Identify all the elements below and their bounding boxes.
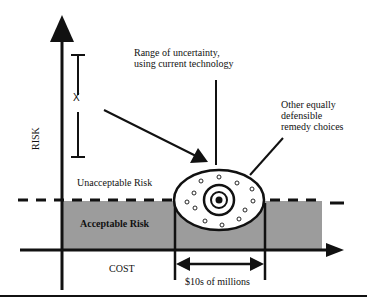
risk-cost-diagram: [0, 0, 367, 301]
pointer-arrowhead-icon: [190, 148, 208, 163]
alternatives-label-line2: defensible: [281, 110, 322, 121]
uncertainty-label-line1: Range of uncertainty,: [134, 47, 220, 58]
unacceptable-risk-label: Unacceptable Risk: [77, 177, 152, 188]
alternatives-label-line3: remedy choices: [281, 121, 343, 132]
x-marker-label: X: [73, 92, 80, 103]
x-axis-label: COST: [109, 263, 135, 274]
y-axis-arrowhead-icon: [50, 15, 74, 42]
y-axis-label: RISK: [30, 127, 41, 150]
acceptable-risk-label: Acceptable Risk: [80, 218, 149, 229]
alternatives-leader-line: [250, 138, 283, 175]
uncertainty-label-line2: using current technology: [134, 58, 233, 69]
alternatives-label-line1: Other equally: [281, 99, 336, 110]
x-axis-arrowhead-icon: [326, 243, 344, 257]
pointer-arrow: [104, 110, 200, 158]
cost-range-label: $10s of millions: [185, 276, 250, 287]
